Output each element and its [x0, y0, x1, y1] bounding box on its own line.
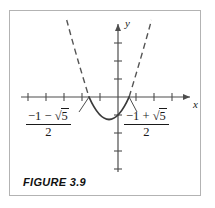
- root-left-prefix: −1: [28, 109, 41, 123]
- x-axis-arrowhead: [183, 94, 190, 100]
- root-left-radicand: 5: [61, 108, 69, 123]
- figure-container: y x −1 − √5 2 −1 + √5 2 FIGURE 3.9: [0, 0, 215, 208]
- y-axis-label: y: [125, 17, 130, 29]
- root-label-right-denominator: 2: [124, 125, 169, 139]
- y-axis-arrowhead: [115, 24, 121, 31]
- root-label-left: −1 − √5 2: [26, 110, 71, 139]
- root-right-radicand: 5: [159, 108, 167, 123]
- root-label-right: −1 + √5 2: [124, 110, 169, 139]
- root-right-operator: +: [142, 109, 149, 123]
- leader-line-left-root: [79, 97, 89, 112]
- root-left-operator: −: [44, 109, 51, 123]
- root-label-left-denominator: 2: [26, 125, 71, 139]
- root-right-prefix: −1: [126, 109, 139, 123]
- y-axis: [115, 24, 121, 172]
- figure-caption: FIGURE 3.9: [23, 176, 86, 188]
- parabola-dashed-left: [67, 20, 89, 97]
- root-label-right-numerator: −1 + √5: [124, 110, 169, 125]
- parabola-dashed-right: [129, 20, 151, 97]
- root-label-left-numerator: −1 − √5: [26, 110, 71, 125]
- x-axis-label: x: [193, 98, 198, 110]
